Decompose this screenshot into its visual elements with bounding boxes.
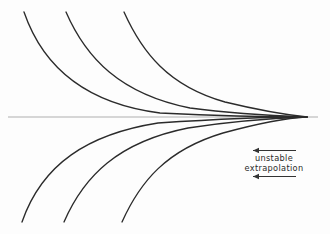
arrow-row-top <box>236 146 312 153</box>
annotation-line-1: unstable <box>236 153 312 163</box>
arrow-left-icon <box>253 174 296 179</box>
curve-upper-3 <box>124 12 307 117</box>
annotation-unstable-extrapolation: unstable extrapolation <box>236 146 312 180</box>
annotation-line-2: extrapolation <box>236 163 312 173</box>
arrow-row-bottom <box>236 173 312 180</box>
arrow-left-icon <box>253 148 296 153</box>
curve-canvas <box>0 0 330 234</box>
figure-container: unstable extrapolation <box>0 0 330 234</box>
curve-upper-2 <box>66 12 307 117</box>
